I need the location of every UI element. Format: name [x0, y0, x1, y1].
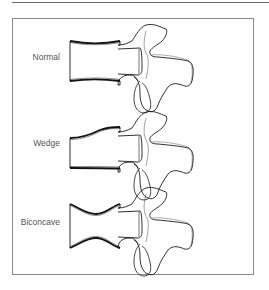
vertebra-wedge — [70, 111, 193, 200]
vertebra-normal — [70, 24, 193, 113]
vertebrae-drawing — [0, 0, 269, 290]
vertebra-biconcave — [70, 187, 193, 276]
